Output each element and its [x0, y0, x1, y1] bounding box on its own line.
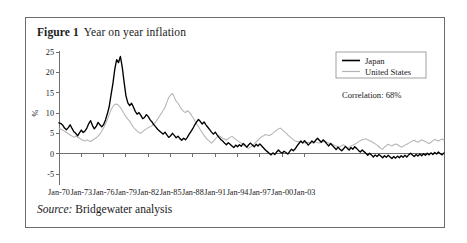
figure-title: Year on year inflation: [84, 26, 186, 38]
source-value: Bridgewater analysis: [75, 203, 172, 215]
figure-label: Figure 1: [37, 26, 79, 38]
legend-label-japan[interactable]: Japan: [365, 56, 385, 66]
source-label: Source:: [37, 203, 72, 215]
legend-label-united-states[interactable]: United States: [365, 67, 412, 77]
x-tick-label: Jan-88: [182, 188, 204, 197]
figure-panel: Figure 1Year on year inflation -50510152…: [25, 17, 445, 228]
y-tick-label: 10: [46, 109, 54, 118]
x-tick-label: Jan-00: [271, 188, 293, 197]
y-tick-label: 25: [46, 48, 54, 57]
x-tick-label: Jan-94: [227, 188, 249, 197]
y-tick-label: 20: [46, 68, 54, 77]
inflation-line-chart: -50510152025 Jan-70Jan-73Jan-76Jan-79Jan…: [26, 44, 446, 204]
y-tick-label: 0: [50, 150, 54, 159]
chart-legend[interactable]: JapanUnited States: [336, 52, 426, 78]
x-tick-label: Jan-85: [160, 188, 182, 197]
x-axis: Jan-70Jan-73Jan-76Jan-79Jan-82Jan-85Jan-…: [48, 154, 315, 197]
x-tick-label: Jan-97: [249, 188, 271, 197]
y-tick-label: 5: [50, 129, 54, 138]
series-united-states: [59, 93, 444, 149]
chart-plot-area: -50510152025 Jan-70Jan-73Jan-76Jan-79Jan…: [26, 44, 446, 204]
y-axis-title: %: [31, 109, 40, 116]
figure-caption: Figure 1Year on year inflation: [37, 26, 186, 38]
x-tick-label: Jan-91: [204, 188, 226, 197]
y-tick-label: -5: [47, 170, 54, 179]
x-tick-label: Jan-73: [70, 188, 92, 197]
x-tick-label: Jan-82: [137, 188, 159, 197]
correlation-text: Correlation: 68%: [342, 90, 401, 100]
x-tick-label: Jan-03: [294, 188, 316, 197]
y-tick-label: 15: [46, 89, 54, 98]
correlation-annotation: Correlation: 68%: [342, 90, 401, 100]
x-tick-label: Jan-76: [93, 188, 115, 197]
source-note: Source:Bridgewater analysis: [37, 203, 172, 215]
x-tick-label: Jan-79: [115, 188, 137, 197]
y-axis-title-text: %: [31, 109, 40, 116]
x-tick-label: Jan-70: [48, 188, 70, 197]
